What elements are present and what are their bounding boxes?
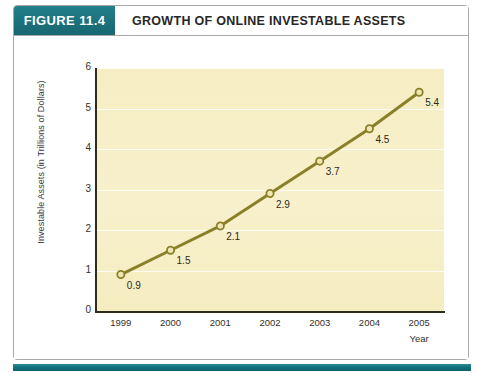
- y-tick-label: 6: [71, 61, 91, 72]
- x-tick-label: 2005: [396, 317, 442, 328]
- data-point-label: 3.7: [326, 166, 340, 177]
- y-axis-title: Investable Assets (in Trillions of Dolla…: [36, 62, 46, 262]
- figure-frame: FIGURE 11.4 GROWTH OF ONLINE INVESTABLE …: [13, 5, 469, 360]
- data-point-label: 4.5: [375, 134, 389, 145]
- data-point-marker: [266, 190, 273, 197]
- data-point-label: 2.1: [226, 231, 240, 242]
- data-point-marker: [117, 271, 124, 278]
- bottom-accent-rule: [13, 364, 471, 371]
- y-tick-label: 4: [71, 142, 91, 153]
- x-tick-label: 2001: [197, 317, 243, 328]
- source-note: [13, 380, 453, 389]
- line-series: [96, 68, 444, 311]
- data-point-marker: [366, 125, 373, 132]
- y-tick-label: 5: [71, 102, 91, 113]
- x-axis-tick-labels: 1999200020012002200320042005: [96, 317, 444, 333]
- figure-number-badge: FIGURE 11.4: [14, 6, 115, 35]
- data-point-label: 0.9: [127, 280, 141, 291]
- chart-region: Investable Assets (in Trillions of Dolla…: [14, 37, 468, 359]
- data-point-marker: [316, 158, 323, 165]
- data-point-label: 2.9: [276, 199, 290, 210]
- x-axis-line: [95, 311, 445, 313]
- x-tick-label: 2003: [297, 317, 343, 328]
- x-tick-label: 1999: [98, 317, 144, 328]
- series-line: [121, 92, 419, 274]
- y-axis-tick-labels: 0123456: [67, 68, 91, 311]
- data-point-label: 5.4: [425, 97, 439, 108]
- y-tick-label: 1: [71, 264, 91, 275]
- data-point-marker: [217, 222, 224, 229]
- x-tick-label: 2000: [148, 317, 194, 328]
- figure-header: FIGURE 11.4 GROWTH OF ONLINE INVESTABLE …: [14, 6, 468, 36]
- x-axis-title: Year: [396, 333, 442, 344]
- figure-title: GROWTH OF ONLINE INVESTABLE ASSETS: [115, 6, 468, 35]
- data-point-marker: [416, 89, 423, 96]
- y-tick-label: 2: [71, 223, 91, 234]
- x-tick-label: 2004: [346, 317, 392, 328]
- data-point-label: 1.5: [177, 255, 191, 266]
- x-tick-label: 2002: [247, 317, 293, 328]
- y-tick-label: 3: [71, 183, 91, 194]
- data-point-marker: [167, 247, 174, 254]
- y-tick-label: 0: [71, 304, 91, 315]
